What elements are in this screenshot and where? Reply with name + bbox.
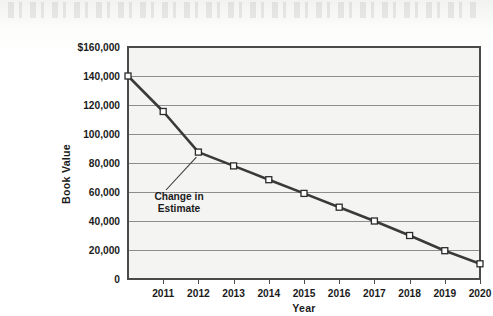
y-axis-tick-label: 20,000 [89,245,120,256]
x-axis-tick-label: 2014 [257,288,280,299]
data-point-marker [336,204,342,210]
x-axis-tick-label: 2018 [398,288,421,299]
x-axis-tick-labels: 2011201220132014201520162017201820192020 [152,288,492,299]
book-value-line-chart: $160,000140,000120,000100,00080,00060,00… [40,16,493,316]
data-point-marker [125,73,131,79]
x-axis-tick-label: 2017 [363,288,386,299]
data-point-marker [407,233,413,239]
x-axis-tick-label: 2015 [293,288,316,299]
y-axis-tick-labels: $160,000140,000120,000100,00080,00060,00… [78,42,121,285]
change-in-estimate-label-line2: Estimate [158,203,201,214]
data-point-marker [477,261,483,267]
data-point-marker [160,109,166,115]
y-axis-tick-label: 80,000 [89,158,120,169]
y-axis-tick-label: 0 [114,274,120,285]
data-point-marker [266,177,272,183]
y-axis-title: Book Value [60,144,72,204]
x-axis-title: Year [292,302,316,314]
x-axis-tick-label: 2013 [222,288,245,299]
data-point-marker [371,218,377,224]
chart-canvas: $160,000140,000120,000100,00080,00060,00… [40,16,493,316]
x-axis-tick-label: 2016 [328,288,351,299]
change-in-estimate-label-line1: Change in [154,191,203,202]
x-axis-tick-label: 2012 [187,288,210,299]
x-axis-tick-label: 2011 [152,288,174,299]
data-point-marker [195,149,201,155]
x-axis-tick-label: 2020 [469,288,492,299]
y-axis-tick-label: 40,000 [89,216,120,227]
y-axis-tick-label: 140,000 [83,71,120,82]
y-axis-tick-label: 100,000 [83,129,120,140]
x-axis-tick-label: 2019 [433,288,456,299]
y-axis-tick-label: $160,000 [78,42,121,53]
y-axis-tick-label: 60,000 [89,187,120,198]
data-point-marker [301,190,307,196]
data-point-marker [231,163,237,169]
data-point-marker [442,248,448,254]
y-axis-tick-label: 120,000 [83,100,120,111]
